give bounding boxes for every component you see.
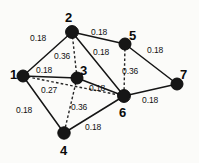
node-label-1: 1: [10, 68, 17, 81]
edge-weight-label-1-3: 0.18: [36, 66, 52, 75]
node-label-2: 2: [65, 11, 72, 24]
edge-weight-label-6-7: 0.18: [142, 96, 158, 105]
graph-canvas: [0, 0, 199, 163]
edge-weight-label-2-5: 0.18: [91, 28, 107, 37]
edge-weight-label-3-6: 0.18: [89, 84, 105, 93]
edge-weight-label-4-6: 0.18: [85, 123, 101, 132]
weighted-graph-diagram: 0.180.180.180.180.180.180.180.180.180.36…: [0, 0, 199, 163]
node-label-6: 6: [119, 106, 126, 119]
graph-node-4[interactable]: [58, 127, 70, 139]
node-label-3: 3: [80, 64, 87, 77]
edge-weight-label-5-6: 0.36: [122, 67, 138, 76]
edge-weight-label-3-4: 0.36: [71, 103, 87, 112]
edge-weight-label-1-4: 0.18: [16, 106, 32, 115]
edge-weight-label-1-2: 0.18: [30, 34, 46, 43]
node-label-4: 4: [60, 144, 67, 157]
graph-node-2[interactable]: [66, 26, 79, 39]
graph-node-1[interactable]: [17, 70, 29, 82]
graph-edge-2-3: [72, 32, 77, 78]
node-label-7: 7: [180, 68, 187, 81]
graph-edge-1-3: [23, 76, 77, 78]
edge-weight-label-2-3: 0.36: [54, 52, 70, 61]
graph-node-6[interactable]: [118, 90, 131, 103]
edge-weight-label-1-6: 0.27: [41, 86, 57, 95]
node-label-5: 5: [129, 29, 136, 42]
edge-weight-label-5-7: 0.18: [147, 46, 163, 55]
edge-weight-label-2-6: 0.18: [93, 48, 109, 57]
